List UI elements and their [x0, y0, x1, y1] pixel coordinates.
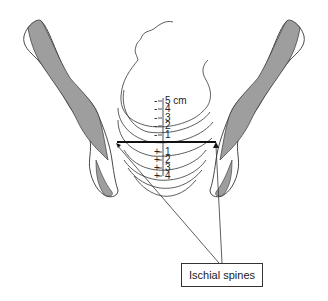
ischial-spines-label: Ischial spines — [181, 263, 263, 287]
scale-labels-below: + 1 + 2 + 3 + 4 — [154, 146, 171, 181]
scale-labels-above: - 5 cm - 4 - 3 - 2 - 1 — [154, 95, 187, 140]
pelvis-diagram: - 5 cm - 4 - 3 - 2 - 1 + 1 + 2 + 3 + 4 — [0, 0, 328, 301]
left-pelvic-bone — [24, 20, 118, 197]
scale-label: 4 — [165, 170, 171, 181]
scale-label: 1 — [165, 129, 171, 140]
scale-sign: - — [154, 129, 157, 140]
scale-sign: + — [154, 170, 160, 181]
right-pelvic-bone — [210, 20, 304, 197]
